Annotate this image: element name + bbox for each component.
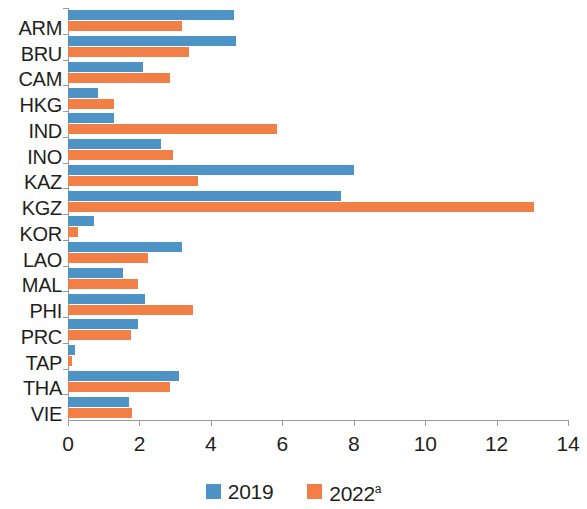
x-axis-tick-label: 14 xyxy=(538,432,587,456)
bar-prc-2019 xyxy=(68,319,138,329)
bar-hkg-2022 xyxy=(68,99,114,109)
y-axis-tick xyxy=(63,8,68,9)
bar-hkg-2019 xyxy=(68,88,98,98)
x-axis-tick-label: 6 xyxy=(252,432,312,456)
y-axis-tick xyxy=(63,137,68,138)
legend-label-2022-superscript: a xyxy=(375,482,381,496)
y-axis-category-label: LAO xyxy=(2,249,62,271)
legend-label-2019: 2019 xyxy=(228,481,274,503)
y-axis-category-label: INO xyxy=(2,146,62,168)
y-axis-category-label: KAZ xyxy=(2,171,62,193)
x-axis-tick-label: 10 xyxy=(395,432,455,456)
legend-swatch-2019 xyxy=(206,484,221,499)
x-axis-tick xyxy=(282,420,283,426)
x-axis-tick xyxy=(568,420,569,426)
y-axis-category-label: ARM xyxy=(2,17,62,39)
bar-ino-2019 xyxy=(68,139,161,149)
bar-ind-2019 xyxy=(68,113,114,123)
bar-lao-2019 xyxy=(68,242,182,252)
x-axis-tick xyxy=(425,420,426,426)
y-axis-tick xyxy=(63,163,68,164)
y-axis-category-label: BRU xyxy=(2,43,62,65)
x-axis-tick xyxy=(497,420,498,426)
y-axis-tick xyxy=(63,214,68,215)
bar-kor-2019 xyxy=(68,216,94,226)
bar-bru-2022 xyxy=(68,47,189,57)
y-axis-tick xyxy=(63,291,68,292)
x-axis-tick xyxy=(211,420,212,426)
bar-ind-2022 xyxy=(68,124,277,134)
bar-arm-2019 xyxy=(68,10,234,20)
bar-arm-2022 xyxy=(68,21,182,31)
y-axis-tick xyxy=(63,343,68,344)
y-axis-tick xyxy=(63,394,68,395)
y-axis-category-label: KGZ xyxy=(2,197,62,219)
x-axis-tick xyxy=(139,420,140,426)
y-axis-category-labels: ARMBRUCAMHKGINDINOKAZKGZKORLAOMALPHIPRCT… xyxy=(0,8,62,420)
y-axis-category-label: IND xyxy=(2,120,62,142)
bar-lao-2022 xyxy=(68,253,148,263)
y-axis-tick xyxy=(63,60,68,61)
y-axis-category-label: CAM xyxy=(2,68,62,90)
bar-vie-2022 xyxy=(68,408,132,418)
y-axis-tick xyxy=(63,240,68,241)
bar-tap-2019 xyxy=(68,345,75,355)
y-axis-category-label: PHI xyxy=(2,300,62,322)
plot-area xyxy=(68,8,568,420)
x-axis-line xyxy=(68,420,569,421)
x-axis-tick xyxy=(68,420,69,426)
y-axis-tick xyxy=(63,317,68,318)
bar-mal-2022 xyxy=(68,279,138,289)
bar-kgz-2022 xyxy=(68,202,534,212)
bar-tap-2022 xyxy=(68,356,72,366)
bar-mal-2019 xyxy=(68,268,123,278)
x-axis-tick-label: 4 xyxy=(181,432,241,456)
bar-tha-2019 xyxy=(68,371,179,381)
y-axis-category-label: MAL xyxy=(2,274,62,296)
bar-chart: ARMBRUCAMHKGINDINOKAZKGZKORLAOMALPHIPRCT… xyxy=(0,0,587,509)
bar-prc-2022 xyxy=(68,330,131,340)
bar-kgz-2019 xyxy=(68,191,341,201)
y-axis-tick xyxy=(63,111,68,112)
x-axis-tick-label: 0 xyxy=(38,432,98,456)
bar-kaz-2019 xyxy=(68,165,354,175)
y-axis-category-label: PRC xyxy=(2,326,62,348)
y-axis-category-label: KOR xyxy=(2,223,62,245)
legend-item-2022: 2022a xyxy=(307,478,381,505)
bar-cam-2019 xyxy=(68,62,143,72)
y-axis-category-label: TAP xyxy=(2,352,62,374)
y-axis-category-label: THA xyxy=(2,377,62,399)
bar-vie-2019 xyxy=(68,397,129,407)
x-axis-tick xyxy=(354,420,355,426)
bar-ino-2022 xyxy=(68,150,173,160)
bar-bru-2019 xyxy=(68,36,236,46)
y-axis-tick xyxy=(63,266,68,267)
x-axis-tick-label: 12 xyxy=(467,432,527,456)
legend-swatch-2022 xyxy=(307,484,322,499)
y-axis-tick xyxy=(63,34,68,35)
legend-item-2019: 2019 xyxy=(206,481,274,503)
y-axis-tick xyxy=(63,188,68,189)
bar-cam-2022 xyxy=(68,73,170,83)
x-axis-tick-label: 2 xyxy=(109,432,169,456)
y-axis-tick xyxy=(63,369,68,370)
legend-label-2022-text: 2022 xyxy=(329,482,375,505)
y-axis-category-label: VIE xyxy=(2,403,62,425)
y-axis-tick xyxy=(63,85,68,86)
bar-kor-2022 xyxy=(68,227,78,237)
legend-label-2022: 2022a xyxy=(329,478,381,505)
bar-tha-2022 xyxy=(68,382,170,392)
chart-legend: 2019 2022a xyxy=(0,478,587,505)
y-axis-category-label: HKG xyxy=(2,94,62,116)
bar-kaz-2022 xyxy=(68,176,198,186)
x-axis-tick-label: 8 xyxy=(324,432,384,456)
bar-phi-2022 xyxy=(68,305,193,315)
bar-phi-2019 xyxy=(68,294,145,304)
